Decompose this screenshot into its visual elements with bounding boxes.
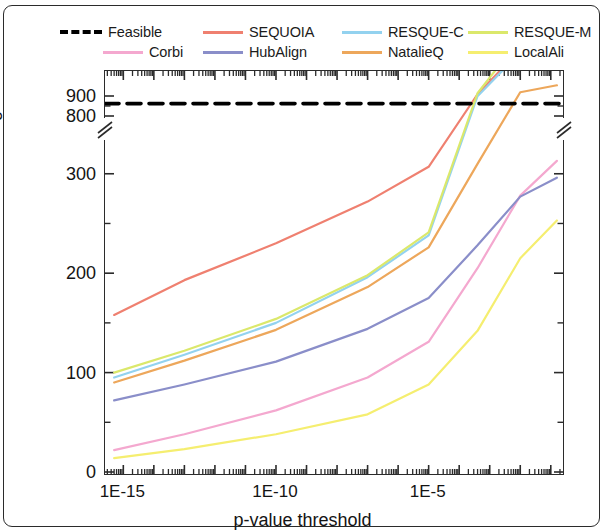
legend-swatch-feasible — [60, 30, 102, 34]
legend-label-resque-m: RESQUE-M — [514, 24, 591, 40]
legend-swatch-hubalign — [203, 51, 243, 54]
y-axis-break-right — [555, 118, 571, 138]
legend-entry-resque-m: RESQUE-M — [468, 22, 591, 42]
series-line-hubalign — [114, 178, 557, 401]
legend-entry-natalieq: NatalieQ — [342, 42, 444, 62]
x-tick-1E-15: 1E-15 — [100, 482, 145, 502]
plot-svg — [105, 71, 563, 474]
legend-entry-sequoia: SEQUOIA — [203, 22, 314, 42]
legend-entry-feasible: Feasible — [60, 22, 162, 42]
y-tick-100: 100 — [40, 362, 96, 383]
x-tick-1E-5: 1E-5 — [410, 482, 446, 502]
legend-entry-corbi: Corbi — [103, 42, 183, 62]
y-axis-break-left — [96, 118, 112, 138]
legend-label-localali: LocalAli — [514, 44, 564, 60]
x-tick-1E-10: 1E-10 — [252, 482, 297, 502]
legend-swatch-resque-c — [342, 31, 382, 34]
chart-legend: FeasibleSEQUOIARESQUE-CRESQUE-M CorbiHub… — [60, 22, 560, 62]
series-line-resque-m — [114, 71, 557, 373]
plot-area — [104, 70, 564, 475]
y-tick-300: 300 — [40, 163, 96, 184]
legend-swatch-resque-m — [468, 31, 508, 34]
y-axis-title: Number of significant hits — [0, 0, 3, 272]
legend-label-sequoia: SEQUOIA — [249, 24, 314, 40]
legend-label-resque-c: RESQUE-C — [388, 24, 464, 40]
legend-entry-localali: LocalAli — [468, 42, 564, 62]
y-tick-0: 0 — [40, 462, 96, 483]
y-tick-900: 900 — [40, 86, 96, 107]
series-line-sequoia — [114, 71, 557, 315]
legend-label-feasible: Feasible — [108, 24, 162, 40]
legend-swatch-corbi — [103, 51, 143, 54]
legend-swatch-natalieq — [342, 51, 382, 54]
legend-swatch-localali — [468, 51, 508, 54]
legend-label-natalieq: NatalieQ — [388, 44, 444, 60]
legend-entry-resque-c: RESQUE-C — [342, 22, 464, 42]
y-tick-200: 200 — [40, 263, 96, 284]
x-axis-title: p-value threshold — [0, 510, 605, 531]
y-tick-800: 800 — [40, 106, 96, 127]
series-line-natalieq — [114, 85, 557, 382]
series-line-corbi — [114, 161, 557, 450]
figure-container: FeasibleSEQUOIARESQUE-CRESQUE-M CorbiHub… — [0, 0, 605, 531]
legend-swatch-sequoia — [203, 31, 243, 34]
series-line-resque-c — [114, 71, 557, 378]
legend-label-hubalign: HubAlign — [249, 44, 307, 60]
legend-entry-hubalign: HubAlign — [203, 42, 307, 62]
legend-label-corbi: Corbi — [149, 44, 183, 60]
